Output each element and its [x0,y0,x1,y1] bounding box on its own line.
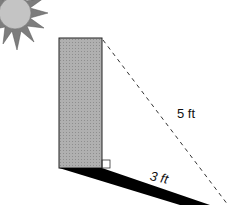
sun-icon [0,0,48,50]
building [59,38,102,168]
hypotenuse-label: 5 ft [177,106,195,121]
right-angle-marker [102,160,110,168]
shadow [59,168,210,205]
diagram-canvas [0,0,243,205]
